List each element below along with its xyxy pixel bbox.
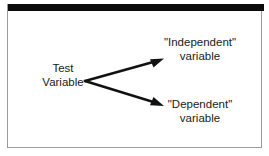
node-label-independent-variable-line1: "Independent"	[160, 35, 240, 49]
figure-frame: Test Variable "Independent" variable "De…	[0, 0, 269, 156]
node-label-test-variable-line1: Test	[28, 61, 98, 75]
node-label-independent-variable-line2: variable	[160, 49, 240, 63]
node-label-dependent-variable-line1: "Dependent"	[160, 97, 240, 111]
node-label-test-variable-line2: Variable	[28, 75, 98, 89]
node-label-independent-variable: "Independent" variable	[160, 35, 240, 63]
node-label-dependent-variable: "Dependent" variable	[160, 97, 240, 125]
node-label-dependent-variable-line2: variable	[160, 111, 240, 125]
node-label-test-variable: Test Variable	[28, 61, 98, 89]
